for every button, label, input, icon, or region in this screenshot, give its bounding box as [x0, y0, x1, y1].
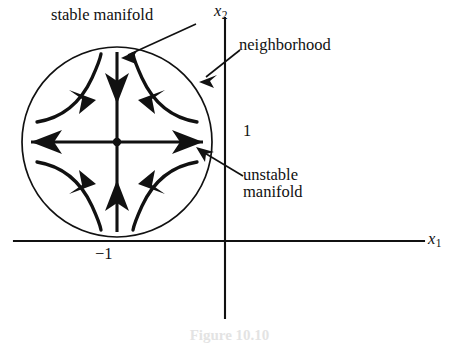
leader-stable-manifold	[121, 24, 196, 64]
leader-neighborhood-line	[206, 50, 240, 77]
figure-caption-partial: Figure 10.10	[0, 327, 459, 344]
saddle-equilibrium-point	[113, 138, 121, 146]
leader-unstable-manifold	[196, 147, 243, 176]
label-unstable-manifold-line2: manifold	[243, 183, 303, 200]
trajectory-upper-left-curve	[37, 54, 101, 122]
x2-axis-label: x2	[214, 2, 228, 22]
x1-axis-label-base: x	[428, 229, 435, 248]
label-unstable-manifold: unstable manifold	[243, 166, 303, 200]
trajectory-lower-right-curve	[133, 162, 197, 230]
label-neighborhood: neighborhood	[239, 36, 331, 53]
x2-axis-label-base: x	[214, 1, 221, 20]
x1-axis-label: x1	[428, 230, 442, 250]
trajectory-lower-right	[133, 162, 197, 230]
label-unstable-manifold-line1: unstable	[243, 166, 303, 183]
trajectory-lower-left	[37, 162, 101, 230]
trajectory-lower-left-curve	[37, 162, 101, 230]
x1-axis-label-subscript: 1	[436, 237, 442, 249]
trajectory-upper-right-curve	[133, 54, 197, 122]
leader-stable-manifold-line	[128, 24, 196, 55]
trajectory-upper-left	[37, 54, 101, 122]
y-axis-tick-label-one: 1	[243, 122, 251, 139]
leader-neighborhood	[199, 50, 240, 88]
trajectory-upper-right	[133, 54, 197, 122]
x2-axis-label-subscript: 2	[222, 9, 228, 21]
label-stable-manifold: stable manifold	[51, 6, 153, 23]
x-axis-tick-label-minus-one: −1	[95, 245, 113, 262]
leader-neighborhood-arrowhead	[199, 75, 217, 88]
axes-group	[14, 18, 424, 318]
